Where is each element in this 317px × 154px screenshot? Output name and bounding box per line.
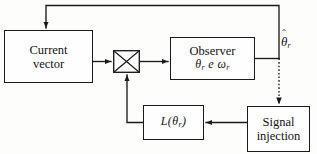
block-observer: Observer θr e ωr: [170, 37, 255, 80]
block-diagram: Current vector Observer θr e ωr L(θr) Si…: [0, 0, 317, 154]
output-label-theta-hat-r: ˆ θ r: [281, 34, 291, 50]
block-signal-injection-line2: injection: [257, 129, 301, 143]
observer-e-symbol: e: [208, 57, 214, 71]
block-signal-injection: Signal injection: [247, 106, 310, 152]
block-current-vector-line1: Current: [29, 43, 67, 57]
block-observer-title: Observer: [190, 44, 236, 58]
gain-close-paren: ): [182, 114, 186, 128]
multiplier-cross-icon: [113, 50, 140, 73]
block-gain: L(θr): [143, 105, 204, 140]
theta-subscript: r: [287, 41, 290, 50]
block-observer-variables: θr e ωr: [195, 58, 230, 73]
block-signal-injection-line1: Signal: [263, 115, 295, 129]
block-current-vector: Current vector: [4, 30, 93, 83]
observer-omega-subscript: r: [226, 63, 230, 72]
block-gain-label: L(θr): [161, 115, 187, 130]
gain-L-open: L(: [161, 114, 172, 128]
block-current-vector-line2: vector: [33, 57, 64, 71]
theta-hat-group: ˆ θ: [281, 34, 287, 50]
hat-accent: ˆ: [282, 28, 286, 39]
observer-theta-subscript: r: [201, 63, 205, 72]
path-gain-to-junction: [127, 75, 143, 123]
